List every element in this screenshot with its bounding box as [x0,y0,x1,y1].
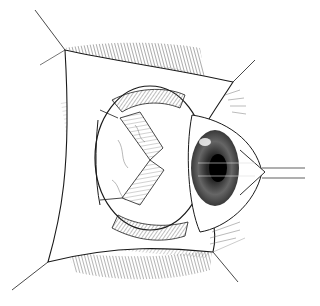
illustration-canvas [0,0,320,306]
suture-bottom-right [213,252,238,282]
suture-top-right [233,60,255,82]
suture-top-left [35,10,65,50]
suture-bottom-left [12,262,48,290]
eye-surgery-illustration [0,0,320,306]
cornea-iris [188,115,265,232]
